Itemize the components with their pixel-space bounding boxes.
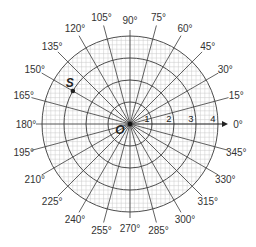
radius-label-4: 4 (210, 113, 215, 124)
radius-label-1: 1 (144, 113, 149, 124)
angle-label-105: 105° (91, 12, 112, 23)
angle-label-255: 255° (91, 225, 112, 236)
angle-label-150: 150° (24, 64, 45, 75)
origin-dot (128, 122, 132, 126)
polar-grid-diagram: 0°15°30°45°60°75°90°105°120°135°150°165°… (0, 0, 256, 247)
angle-label-180: 180° (16, 119, 37, 130)
radial-line-315 (130, 124, 202, 196)
point-label-S: S (66, 76, 74, 90)
angle-label-0: 0° (233, 119, 243, 130)
angle-label-45: 45° (200, 41, 215, 52)
angle-label-165: 165° (13, 90, 34, 101)
radius-label-3: 3 (188, 113, 193, 124)
angle-label-225: 225° (42, 196, 63, 207)
angle-label-270: 270° (120, 223, 141, 234)
radius-label-2: 2 (166, 113, 171, 124)
angle-label-240: 240° (65, 214, 86, 225)
origin-label: O (115, 123, 125, 137)
angle-label-210: 210° (24, 174, 45, 185)
arrow-right-icon (222, 121, 228, 127)
angle-label-330: 330° (215, 174, 236, 185)
angle-label-345: 345° (226, 147, 247, 158)
angle-label-30: 30° (218, 64, 233, 75)
angle-label-75: 75° (151, 12, 166, 23)
angle-label-285: 285° (148, 225, 169, 236)
angle-label-135: 135° (42, 41, 63, 52)
angle-label-60: 60° (177, 23, 192, 34)
angle-label-90: 90° (122, 15, 137, 26)
plotted-points: S (66, 76, 75, 93)
angle-label-120: 120° (65, 23, 86, 34)
angle-label-315: 315° (197, 196, 218, 207)
angle-label-15: 15° (229, 90, 244, 101)
angle-label-195: 195° (13, 147, 34, 158)
angle-label-300: 300° (175, 214, 196, 225)
